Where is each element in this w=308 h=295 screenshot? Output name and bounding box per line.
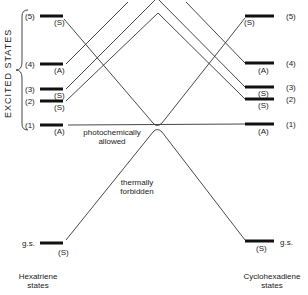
right-level-2-id: (2) (286, 95, 296, 104)
right-level-1-id: (1) (286, 120, 296, 129)
left-level-1-id: (1) (25, 121, 35, 130)
left-gs-id: g.s. (22, 239, 35, 248)
left-level-5-sym: (S) (54, 18, 65, 27)
left-level-3-id: (3) (25, 85, 35, 94)
thermally-forbidden-label: thermally forbidden (112, 178, 162, 196)
left-level-4-id: (4) (25, 60, 35, 69)
right-level-3-sym: (S) (258, 89, 269, 98)
photochemically-allowed-label: photochemically allowed (72, 128, 152, 146)
left-level-2-sym: (S) (54, 103, 65, 112)
left-level-2-id: (2) (25, 97, 35, 106)
right-gs-id: g.s. (280, 238, 293, 247)
right-level-5-id: (5) (286, 12, 296, 21)
cyclohexadiene-title: Cyclohexadiene states (236, 272, 308, 290)
right-level-4-sym: (A) (258, 66, 269, 75)
excited-states-brace (16, 10, 28, 130)
right-level-3-id: (3) (286, 83, 296, 92)
left-level-1-sym: (A) (54, 127, 65, 136)
left-level-5-id: (5) (25, 12, 35, 21)
right-level-5-sym: (S) (244, 18, 255, 27)
right-level-1-sym: (A) (258, 127, 269, 136)
left-gs-sym: (S) (58, 248, 69, 257)
right-gs-sym: (S) (256, 244, 267, 253)
excited-states-label: EXCITED STATES (3, 29, 13, 118)
left-level-4-sym: (A) (54, 66, 65, 75)
right-level-4-id: (4) (286, 59, 296, 68)
hexatriene-title: Hexatriene states (8, 272, 68, 290)
left-level-3-sym: (S) (54, 91, 65, 100)
right-level-2-sym: (S) (258, 101, 269, 110)
